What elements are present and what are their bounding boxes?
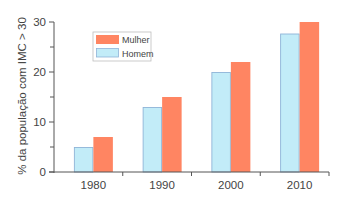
x-tick-label: 1980 bbox=[81, 179, 107, 191]
legend-swatch-homem bbox=[97, 49, 119, 58]
x-tick-label: 1990 bbox=[149, 179, 175, 191]
legend-swatch-mulher bbox=[96, 35, 119, 44]
bar-homem-1990 bbox=[143, 108, 162, 173]
legend-label-homem: Homem bbox=[122, 49, 154, 59]
x-tick-label: 2010 bbox=[287, 179, 313, 191]
bar-mulher-1990 bbox=[162, 97, 182, 172]
y-tick-label: 30 bbox=[33, 16, 46, 28]
legend-label-mulher: Mulher bbox=[122, 35, 150, 45]
bar-homem-2010 bbox=[281, 34, 300, 172]
bar-homem-2000 bbox=[212, 73, 231, 173]
bar-mulher-2000 bbox=[231, 62, 251, 172]
legend: Mulher Homem bbox=[93, 32, 154, 61]
y-tick-label: 10 bbox=[33, 116, 46, 128]
x-axis: 1980199020002010 bbox=[49, 172, 329, 191]
bar-homem-1980 bbox=[74, 148, 93, 173]
bar-mulher-1980 bbox=[93, 137, 113, 172]
bar-mulher-2010 bbox=[300, 22, 320, 172]
y-tick-label: 20 bbox=[33, 66, 46, 78]
x-tick-label: 2000 bbox=[218, 179, 244, 191]
y-axis-label: % da população com IMC > 30 bbox=[16, 17, 28, 175]
y-axis: 0102030 bbox=[33, 16, 54, 178]
y-tick-label: 0 bbox=[40, 166, 46, 178]
bar-chart: % da população com IMC > 30 0102030 1980… bbox=[0, 0, 347, 200]
